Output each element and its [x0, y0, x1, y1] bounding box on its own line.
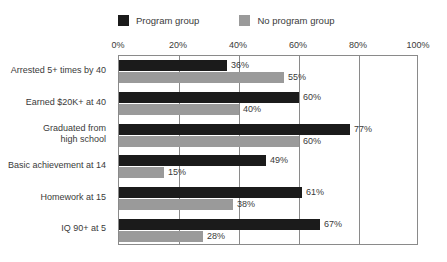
- legend-swatch-gray-icon: [239, 15, 250, 26]
- legend-entry-program-group: Program group: [118, 15, 199, 26]
- x-axis-tick-80: 80%: [349, 39, 367, 51]
- legend-label-no-program-group: No program group: [257, 15, 334, 26]
- bar-row: 61%: [119, 187, 417, 198]
- x-axis-tick-0: 0%: [111, 39, 124, 51]
- bar-row: 36%: [119, 60, 417, 71]
- bar-group: 49%15%: [119, 155, 417, 178]
- bar-no-program: [119, 167, 164, 178]
- bar-value-label: 49%: [266, 155, 288, 166]
- bar-value-label: 15%: [164, 167, 186, 178]
- bar-value-label: 40%: [239, 104, 261, 115]
- bar-value-label: 55%: [284, 72, 306, 83]
- bar-program: [119, 187, 302, 198]
- category-label: IQ 90+ at 5: [61, 223, 106, 235]
- bar-row: 60%: [119, 136, 417, 147]
- bar-group: 67%28%: [119, 219, 417, 242]
- bar-program: [119, 219, 320, 230]
- category-label: Graduated from high school: [43, 123, 106, 146]
- bar-program: [119, 60, 227, 71]
- bar-row: 40%: [119, 104, 417, 115]
- bar-row: 55%: [119, 72, 417, 83]
- category-axis-labels: Arrested 5+ times by 40Earned $20K+ at 4…: [0, 55, 112, 245]
- bar-row: 28%: [119, 231, 417, 242]
- bar-value-label: 61%: [302, 187, 324, 198]
- bar-no-program: [119, 104, 239, 115]
- legend-swatch-dark-icon: [118, 15, 129, 26]
- bar-row: 15%: [119, 167, 417, 178]
- bar-groups: 36%55%60%40%77%60%49%15%61%38%67%28%: [119, 56, 417, 244]
- bar-group: 60%40%: [119, 92, 417, 115]
- bar-value-label: 60%: [299, 92, 321, 103]
- bar-value-label: 67%: [320, 219, 342, 230]
- bar-value-label: 77%: [350, 124, 372, 135]
- bar-row: 60%: [119, 92, 417, 103]
- category-label: Homework at 15: [40, 192, 106, 204]
- plot-area: 36%55%60%40%77%60%49%15%61%38%67%28%: [118, 55, 418, 245]
- bar-group: 36%55%: [119, 60, 417, 83]
- bar-no-program: [119, 72, 284, 83]
- bar-value-label: 28%: [203, 231, 225, 242]
- x-axis-tick-40: 40%: [229, 39, 247, 51]
- x-axis-tick-labels: 0%20%40%60%80%100%: [118, 39, 418, 52]
- bar-row: 77%: [119, 124, 417, 135]
- legend-entry-no-program-group: No program group: [239, 15, 334, 26]
- legend-label-program-group: Program group: [136, 15, 199, 26]
- bar-group: 61%38%: [119, 187, 417, 210]
- bar-group: 77%60%: [119, 124, 417, 147]
- x-axis-tick-100: 100%: [406, 39, 429, 51]
- x-axis-tick-60: 60%: [289, 39, 307, 51]
- bar-program: [119, 92, 299, 103]
- bar-value-label: 38%: [233, 199, 255, 210]
- category-label: Arrested 5+ times by 40: [11, 65, 106, 77]
- bar-program: [119, 124, 350, 135]
- bar-row: 49%: [119, 155, 417, 166]
- bar-no-program: [119, 199, 233, 210]
- category-label: Earned $20K+ at 40: [26, 97, 106, 109]
- bar-program: [119, 155, 266, 166]
- category-label: Basic achievement at 14: [8, 160, 106, 172]
- bar-row: 38%: [119, 199, 417, 210]
- chart-legend: Program group No program group: [118, 12, 334, 28]
- bar-no-program: [119, 136, 299, 147]
- bar-value-label: 60%: [299, 136, 321, 147]
- x-axis-tick-20: 20%: [169, 39, 187, 51]
- bar-row: 67%: [119, 219, 417, 230]
- bar-value-label: 36%: [227, 60, 249, 71]
- bar-no-program: [119, 231, 203, 242]
